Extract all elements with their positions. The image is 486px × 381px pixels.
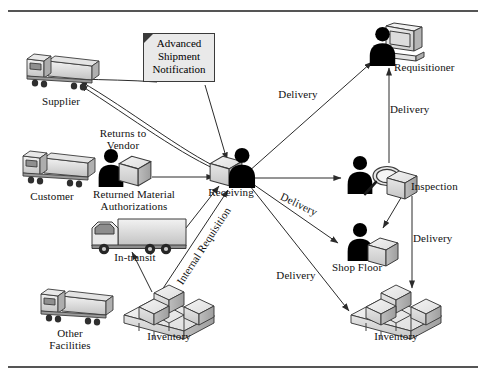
node-receiving-icon (210, 148, 255, 188)
edge-asn-receiving (205, 85, 227, 160)
note-fold-edge-icon (144, 34, 153, 43)
edge-label-delivery-requisitioner: Delivery (268, 88, 328, 100)
label-shopfloor: Shop Floor (332, 261, 402, 273)
label-requisitioner: Requisitioner (394, 61, 480, 73)
figure-canvas: Advanced Shipment Notification Supplier … (0, 0, 486, 381)
label-inspection: Inspection (411, 180, 481, 192)
asn-note-text: Advanced Shipment Notification (152, 37, 205, 75)
edge-label-delivery-inspection-requisitioner: Delivery (390, 103, 450, 115)
edge-label-delivery-inspection-inventory: Delivery (413, 232, 473, 244)
label-rma: Returned Material Authorizations (74, 188, 194, 212)
advanced-shipment-notification-note[interactable]: Advanced Shipment Notification (143, 33, 215, 82)
edge-label-delivery-inventory: Delivery (266, 269, 326, 281)
node-other-facilities-icon (41, 289, 113, 326)
node-inspection-icon (348, 156, 417, 199)
node-shopfloor-icon (348, 223, 398, 266)
edge-label-returns-to-vendor: Returns to Vendor (78, 127, 168, 151)
edge-receiving-requisitioner (248, 62, 372, 172)
node-supplier-icon (27, 54, 99, 91)
label-inventory-right: Inventory (356, 330, 436, 342)
label-inventory-left: Inventory (129, 330, 209, 342)
label-supplier: Supplier (21, 95, 101, 107)
edge-inspection-shopfloor (383, 196, 402, 228)
label-other-facilities: Other Facilities (30, 327, 110, 351)
label-intransit: In-transit (95, 251, 175, 263)
node-rma-icon (99, 149, 151, 187)
node-customer-icon (23, 151, 95, 188)
node-intransit-icon (92, 219, 186, 254)
node-requisitioner-icon (370, 23, 424, 66)
